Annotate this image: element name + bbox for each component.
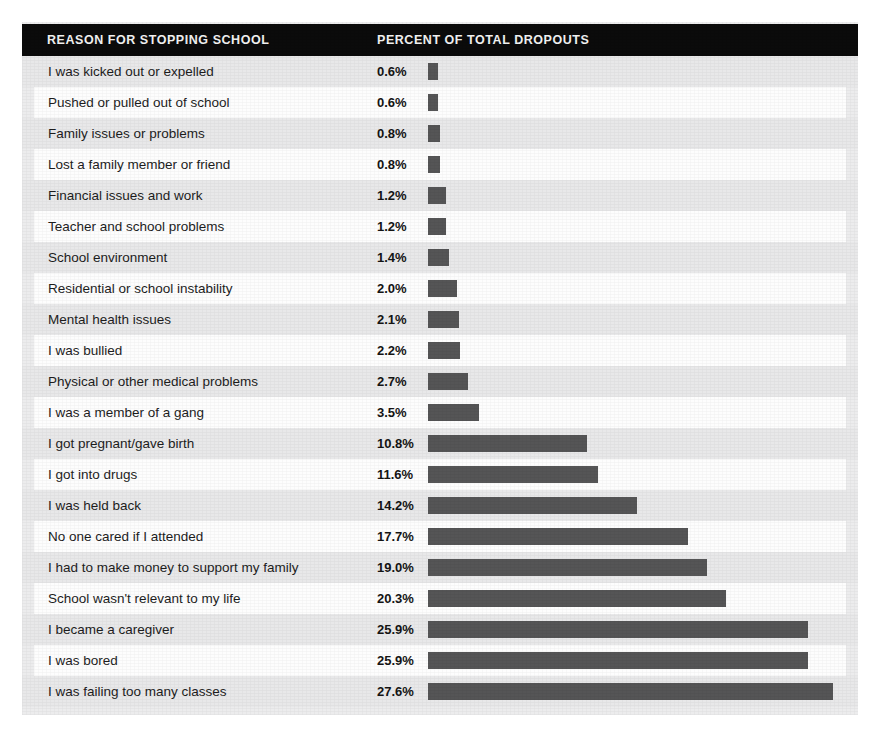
table-row: No one cared if I attended17.7% [22, 521, 858, 552]
bar-track [428, 645, 848, 676]
table-row: School environment1.4% [22, 242, 858, 273]
table-row: Physical or other medical problems2.7% [22, 366, 858, 397]
row-reason-label: I became a caregiver [48, 614, 174, 645]
row-percent-value: 2.7% [377, 366, 407, 397]
table-row: I was bored25.9% [22, 645, 858, 676]
row-reason-label: I was bullied [48, 335, 122, 366]
table-header: REASON FOR STOPPING SCHOOL PERCENT OF TO… [22, 24, 858, 56]
table-row: I got pregnant/gave birth10.8% [22, 428, 858, 459]
bar [428, 342, 460, 359]
bar [428, 590, 726, 607]
table-row: I became a caregiver25.9% [22, 614, 858, 645]
bar-track [428, 335, 848, 366]
row-reason-label: I was kicked out or expelled [48, 56, 214, 87]
table-row: Lost a family member or friend0.8% [22, 149, 858, 180]
table-row: I was failing too many classes27.6% [22, 676, 858, 707]
bar-track [428, 676, 848, 707]
bar-track [428, 397, 848, 428]
column-header-percent: PERCENT OF TOTAL DROPOUTS [377, 24, 589, 56]
bar-track [428, 211, 848, 242]
row-reason-label: I got pregnant/gave birth [48, 428, 194, 459]
row-reason-label: I was held back [48, 490, 141, 521]
bar [428, 125, 440, 142]
bar [428, 156, 440, 173]
row-reason-label: Financial issues and work [48, 180, 203, 211]
bar-track [428, 521, 848, 552]
row-reason-label: I was bored [48, 645, 118, 676]
row-percent-value: 17.7% [377, 521, 414, 552]
table-row: I had to make money to support my family… [22, 552, 858, 583]
row-reason-label: I was failing too many classes [48, 676, 227, 707]
bar [428, 311, 459, 328]
row-percent-value: 2.1% [377, 304, 407, 335]
table-row: Family issues or problems0.8% [22, 118, 858, 149]
bar [428, 373, 468, 390]
bar [428, 218, 446, 235]
row-reason-label: Residential or school instability [48, 273, 233, 304]
bar [428, 63, 438, 80]
bar-track [428, 87, 848, 118]
row-percent-value: 0.8% [377, 118, 407, 149]
row-reason-label: Pushed or pulled out of school [48, 87, 230, 118]
bar-track [428, 366, 848, 397]
bar [428, 528, 688, 545]
column-header-reason: REASON FOR STOPPING SCHOOL [47, 24, 269, 56]
bar-track [428, 428, 848, 459]
bar-track [428, 180, 848, 211]
row-reason-label: Physical or other medical problems [48, 366, 258, 397]
row-percent-value: 1.2% [377, 180, 407, 211]
bar-track [428, 583, 848, 614]
row-percent-value: 1.4% [377, 242, 407, 273]
bar-track [428, 614, 848, 645]
table-row: I was bullied2.2% [22, 335, 858, 366]
row-percent-value: 0.6% [377, 56, 407, 87]
row-percent-value: 11.6% [377, 459, 413, 490]
row-percent-value: 25.9% [377, 645, 414, 676]
bar-track [428, 490, 848, 521]
bar [428, 683, 833, 700]
table-row: I was kicked out or expelled0.6% [22, 56, 858, 87]
row-percent-value: 10.8% [377, 428, 414, 459]
chart-panel: REASON FOR STOPPING SCHOOL PERCENT OF TO… [22, 22, 858, 715]
row-reason-label: School wasn't relevant to my life [48, 583, 240, 614]
row-percent-value: 25.9% [377, 614, 414, 645]
row-percent-value: 2.0% [377, 273, 407, 304]
row-reason-label: I got into drugs [48, 459, 137, 490]
row-percent-value: 20.3% [377, 583, 414, 614]
row-percent-value: 0.8% [377, 149, 407, 180]
bar-track [428, 149, 848, 180]
row-reason-label: Lost a family member or friend [48, 149, 230, 180]
row-percent-value: 3.5% [377, 397, 407, 428]
bar-track [428, 459, 848, 490]
table-row: I was held back14.2% [22, 490, 858, 521]
bar [428, 466, 598, 483]
table-row: Pushed or pulled out of school0.6% [22, 87, 858, 118]
table-row: Mental health issues2.1% [22, 304, 858, 335]
row-percent-value: 14.2% [377, 490, 414, 521]
row-percent-value: 19.0% [377, 552, 414, 583]
bar [428, 652, 808, 669]
chart-rows: I was kicked out or expelled0.6%Pushed o… [22, 56, 858, 707]
row-reason-label: No one cared if I attended [48, 521, 203, 552]
bar-track [428, 242, 848, 273]
bar-track [428, 273, 848, 304]
bar-track [428, 304, 848, 335]
row-reason-label: Mental health issues [48, 304, 171, 335]
table-row: School wasn't relevant to my life20.3% [22, 583, 858, 614]
bar [428, 435, 587, 452]
table-row: Financial issues and work1.2% [22, 180, 858, 211]
table-row: Teacher and school problems1.2% [22, 211, 858, 242]
row-percent-value: 1.2% [377, 211, 407, 242]
bar [428, 249, 449, 266]
bar [428, 94, 438, 111]
bar [428, 621, 808, 638]
row-reason-label: I had to make money to support my family [48, 552, 299, 583]
row-percent-value: 0.6% [377, 87, 407, 118]
bar [428, 559, 707, 576]
row-percent-value: 2.2% [377, 335, 407, 366]
bar-track [428, 56, 848, 87]
bar [428, 497, 637, 514]
row-reason-label: Teacher and school problems [48, 211, 224, 242]
row-percent-value: 27.6% [377, 676, 414, 707]
bar-track [428, 552, 848, 583]
